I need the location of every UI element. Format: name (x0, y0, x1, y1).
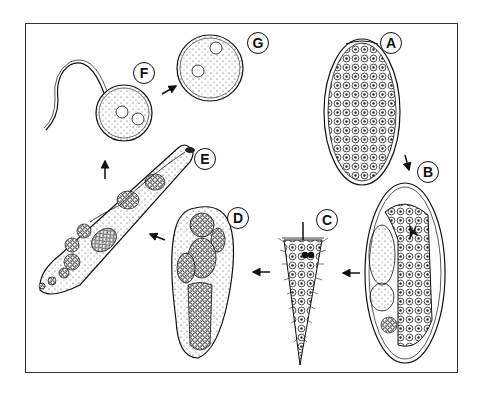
arrow-a-to-b (405, 155, 409, 170)
stage-g-metacercaria (177, 35, 243, 101)
stage-b-embryonated-egg (365, 183, 445, 363)
stage-c-miracidium (278, 222, 328, 365)
stage-label-e: E (194, 148, 216, 170)
arrow-f-to-g (162, 86, 176, 94)
stage-label-c: C (316, 209, 338, 231)
stage-label-f: F (133, 62, 155, 84)
life-cycle-illustration (0, 0, 481, 395)
stage-label-a: A (380, 32, 402, 54)
stage-label-b: B (417, 161, 439, 183)
stage-label-g: G (247, 32, 269, 54)
stage-d-sporocyst (172, 207, 234, 358)
stage-label-d: D (227, 207, 249, 229)
arrow-d-to-e (150, 234, 165, 240)
stage-a-egg (324, 39, 400, 185)
